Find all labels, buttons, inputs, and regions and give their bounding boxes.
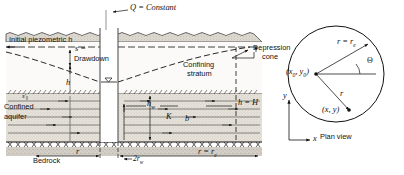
plan-radius-to-edge-label: r = re — [337, 38, 356, 48]
plan-view-radius-to-edge — [316, 44, 368, 74]
pumping-rate-label: Q = Constant — [130, 4, 176, 13]
skin-label: s′ — [22, 93, 26, 100]
cross-section-group — [6, 10, 262, 160]
depression-cone-label-line2: cone — [262, 53, 278, 61]
confined-aquifer-label-line2: aquifer — [4, 113, 27, 121]
plan-point-label: (x, y) — [322, 106, 339, 115]
plan-view-group — [288, 26, 384, 140]
confined-aquifer-label-line1: Confined — [4, 103, 34, 111]
plan-view-axes — [289, 100, 310, 140]
confining-stratum-body — [6, 42, 262, 94]
plan-axis-y-label: y — [283, 92, 287, 101]
influence-radius-label: r = re — [198, 148, 217, 158]
confining-stratum-label-line2: stratum — [187, 70, 212, 78]
hydraulic-conductivity-label: K — [166, 113, 172, 122]
head-h-label: h — [66, 79, 70, 88]
initial-piezometric-text: Initial piezometric h — [9, 35, 72, 44]
boundary-head-label: h = H — [238, 99, 258, 108]
aquifer-thickness-label: b — [185, 115, 189, 124]
plan-angle-label: Θ — [367, 57, 373, 65]
plan-center-label: (x0, y0) — [286, 68, 309, 78]
pumping-rate-leader — [113, 10, 128, 12]
well-casing — [100, 10, 118, 142]
plan-view-caption: Plan view — [320, 133, 352, 141]
radius-label: r — [76, 148, 79, 157]
confining-stratum-label-line1: Confining — [183, 61, 214, 69]
depression-cone-label-line1: Depression — [253, 44, 290, 52]
initial-piezometric-label: Initial piezometric h — [9, 36, 72, 44]
bedrock-label: Bedrock — [33, 157, 60, 165]
well-diameter-label: 2rw — [133, 155, 143, 165]
drawdown-symbol: s = — [75, 45, 86, 54]
plan-radius-label: r — [340, 90, 343, 99]
head-hw-label: hw — [147, 100, 155, 110]
plan-axis-x-label: x — [313, 135, 317, 144]
drawdown-label: Drawdown — [74, 55, 109, 63]
